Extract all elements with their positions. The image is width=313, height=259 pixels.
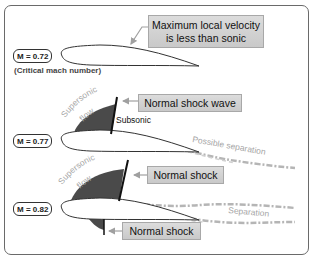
- mach-label-1: M = 0.72: [13, 49, 52, 63]
- airfoil-3: [61, 198, 199, 220]
- airfoil-1: [61, 45, 199, 66]
- separation-label: Separation: [228, 205, 270, 219]
- callout-arrow-1: [131, 27, 148, 44]
- possible-separation-label: Possible separation: [192, 134, 267, 157]
- callout-line-2: is less than sonic: [149, 32, 263, 45]
- airfoil-2: [61, 130, 199, 152]
- callout-line-1: Maximum local velocity: [149, 19, 263, 32]
- subsonic-label: Subsonic: [116, 115, 151, 125]
- callout-normal-shock-upper: Normal shock: [147, 166, 224, 184]
- callout-max-local-velocity: Maximum local velocity is less than soni…: [148, 15, 264, 48]
- critical-mach-note: (Critical mach number): [14, 66, 101, 75]
- mach-label-2: M = 0.77: [13, 134, 52, 148]
- callout-normal-shock-lower: Normal shock: [122, 222, 201, 240]
- callout-normal-shock-wave: Normal shock wave: [138, 94, 242, 112]
- mach-label-3: M = 0.82: [13, 202, 52, 216]
